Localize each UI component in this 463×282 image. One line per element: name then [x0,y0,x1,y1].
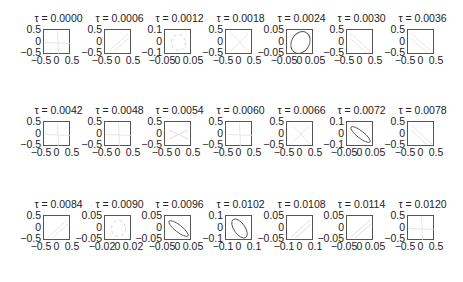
x-tick-label: 0 [357,147,363,158]
x-tick-label: 0 [418,241,424,252]
x-tick-label: 0 [236,241,242,252]
y-tick-label: 0 [1,222,41,233]
panel-title: τ = 0.0030 [337,12,385,24]
x-tick-label: −0.5 [274,147,295,158]
x-tick-label: −0.5 [152,147,173,158]
y-tick-label: 0 [62,222,102,233]
y-tick-label: 0 [365,222,405,233]
panel-title: τ = 0.0084 [34,198,82,210]
x-tick-label: −0.5 [213,55,234,66]
x-tick-label: −0.5 [395,147,416,158]
panel-title: τ = 0.0018 [216,12,264,24]
y-tick-label: 0 [365,36,405,47]
y-tick-label: 0 [183,128,223,139]
x-tick-label: −0.5 [395,55,416,66]
x-tick-label: −0.5 [31,241,52,252]
y-tick-label: 0 [122,222,162,233]
x-tick-label: 0 [418,147,424,158]
y-tick-label: 0.5 [62,116,102,127]
x-tick-label: −0.02 [89,241,116,252]
y-tick-label: 0 [1,128,41,139]
x-tick-label: 0.5 [429,55,444,66]
x-tick-label: 0 [115,55,121,66]
x-tick-label: 0 [54,147,60,158]
y-tick-label: 0 [1,36,41,47]
y-tick-label: 0.5 [1,210,41,221]
x-tick-label: 0 [297,241,303,252]
y-tick-label: 0.1 [122,24,162,35]
x-tick-label: 0 [357,55,363,66]
trajectory-curve [408,216,435,241]
x-tick-label: −0.1 [213,241,234,252]
x-tick-label: 0 [115,241,121,252]
y-tick-label: 0 [244,222,284,233]
x-tick-label: −0.05 [331,241,358,252]
x-tick-label: −0.05 [271,55,298,66]
y-tick-label: 0 [365,128,405,139]
panel-title: τ = 0.0096 [155,198,203,210]
y-tick-label: 0 [304,128,344,139]
x-tick-label: −0.05 [331,147,358,158]
y-tick-label: 0.5 [365,24,405,35]
y-tick-label: 0 [244,36,284,47]
x-tick-label: 0 [54,55,60,66]
y-tick-label: 0.5 [365,116,405,127]
y-tick-label: 0.05 [244,210,284,221]
x-tick-label: −0.1 [274,241,295,252]
y-tick-label: 0.5 [122,116,162,127]
panel-title: τ = 0.0072 [337,104,385,116]
x-tick-label: 0 [175,241,181,252]
x-tick-label: −0.05 [149,55,176,66]
trajectory-curve [408,122,435,147]
trajectory-curve [408,30,435,55]
y-tick-label: 0.5 [244,116,284,127]
y-tick-label: 0.5 [365,210,405,221]
x-tick-label: 0 [115,147,121,158]
x-tick-label: 0.5 [429,241,444,252]
x-tick-label: 0 [236,147,242,158]
plot-axes [407,121,434,146]
panel-title: τ = 0.0066 [277,104,325,116]
y-tick-label: 0.1 [304,116,344,127]
y-tick-label: 0 [183,36,223,47]
y-tick-label: 0.5 [304,24,344,35]
y-tick-label: 0 [244,128,284,139]
y-tick-label: 0.5 [62,24,102,35]
x-tick-label: −0.5 [395,241,416,252]
x-tick-label: 0 [297,55,303,66]
x-tick-label: −0.05 [149,241,176,252]
panel-title: τ = 0.0024 [277,12,325,24]
panel-title: τ = 0.0102 [216,198,264,210]
plot-axes [407,29,434,54]
x-tick-label: −0.5 [92,147,113,158]
x-tick-label: −0.5 [92,55,113,66]
y-tick-label: 0.05 [244,24,284,35]
y-tick-label: 0 [304,36,344,47]
panel-title: τ = 0.0048 [95,104,143,116]
panel-title: τ = 0.0090 [95,198,143,210]
panel-title: τ = 0.0114 [338,198,385,210]
x-tick-label: 0 [175,55,181,66]
x-tick-label: 0 [357,241,363,252]
panel-title: τ = 0.0036 [398,12,446,24]
x-tick-label: 0 [297,147,303,158]
y-tick-label: 0.5 [1,24,41,35]
y-tick-label: 0.5 [183,116,223,127]
y-tick-label: 0.5 [1,116,41,127]
x-tick-label: 0 [175,147,181,158]
x-tick-label: 0 [54,241,60,252]
x-tick-label: −0.5 [213,147,234,158]
y-tick-label: 0 [183,222,223,233]
y-tick-label: 0 [62,128,102,139]
y-tick-label: 0.05 [304,210,344,221]
panel-title: τ = 0.0000 [34,12,82,24]
panel-title: τ = 0.0054 [155,104,203,116]
panel-title: τ = 0.0012 [155,12,203,24]
y-tick-label: 0 [62,36,102,47]
panel-title: τ = 0.0108 [277,198,325,210]
panel-title: τ = 0.0006 [95,12,143,24]
y-tick-label: 0.05 [62,210,102,221]
plot-axes [407,215,434,240]
panel-title: τ = 0.0120 [398,198,446,210]
x-tick-label: 0.5 [429,147,444,158]
